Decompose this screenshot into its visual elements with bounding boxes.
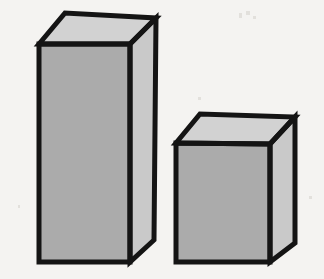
paper-speck — [18, 205, 20, 208]
paper-speck — [239, 13, 242, 18]
tall-box — [39, 13, 156, 262]
short-box — [176, 114, 295, 262]
figure-canvas — [0, 0, 324, 279]
paper-speck — [198, 97, 201, 100]
paper-speck — [246, 11, 250, 15]
box-diagram — [0, 0, 324, 279]
tall-box-front-face — [39, 44, 130, 262]
paper-speck — [253, 16, 256, 19]
short-box-front-face — [176, 143, 270, 262]
paper-speck — [309, 196, 312, 199]
